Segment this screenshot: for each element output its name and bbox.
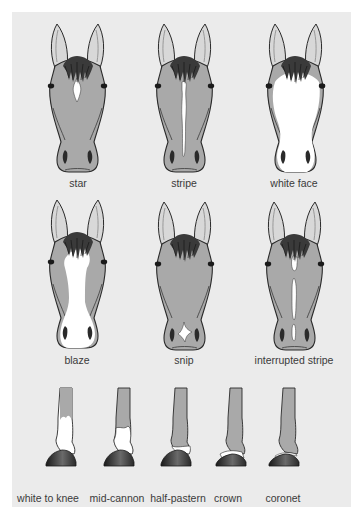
label-blaze: blaze [64, 354, 89, 366]
label-snip: snip [174, 354, 193, 366]
horse-leg-coronet [265, 388, 305, 468]
horse-leg-white-to-knee [42, 388, 82, 468]
horse-leg-crown [212, 388, 252, 468]
label-crown: crown [214, 492, 242, 504]
label-half-pastern: half-pastern [150, 492, 205, 504]
horse-leg-half-pastern [157, 388, 197, 468]
label-star: star [69, 177, 87, 189]
label-stripe: stripe [171, 177, 197, 189]
horse-head-stripe [152, 22, 218, 174]
horse-leg-mid-cannon [100, 388, 140, 468]
label-white-face: white face [270, 177, 317, 189]
horse-head-interrupted-stripe [262, 200, 328, 352]
label-mid-cannon: mid-cannon [90, 492, 145, 504]
horse-head-snip [152, 200, 218, 352]
label-coronet: coronet [265, 492, 300, 504]
horse-head-star [45, 22, 111, 174]
horse-head-blaze [45, 198, 111, 350]
horse-head-white-face [263, 22, 329, 174]
label-interrupted-stripe: interrupted stripe [255, 354, 334, 366]
label-white-to-knee: white to knee [17, 492, 79, 504]
